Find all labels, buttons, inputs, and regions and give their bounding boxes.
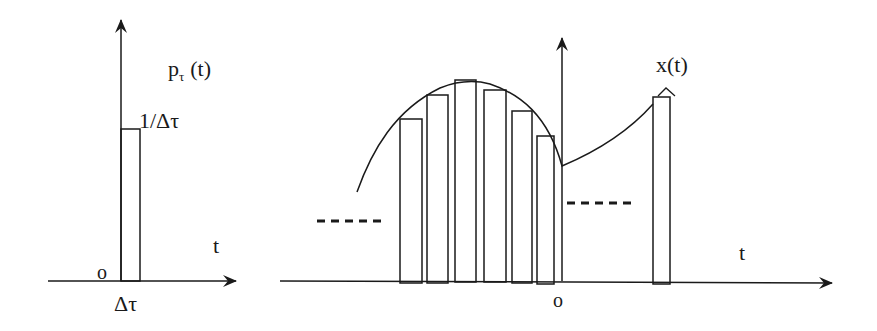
unit-pulse [121,129,140,281]
diagram-canvas: pτ(t) 1/Δτ t o Δτ x(t) t o [0,0,877,331]
t-axis-label-right: t [739,240,745,265]
staircase-approximation-diagram: x(t) t o [280,38,832,311]
signal-function-label: x(t) [656,52,688,77]
t-axis-right [280,281,832,283]
origin-label-right: o [553,289,563,311]
pulse-width-label: Δτ [114,291,137,316]
bar [484,90,506,282]
bar [427,95,448,283]
t-axis-label-left: t [213,233,219,258]
bar [455,80,476,282]
bar [400,119,422,283]
signal-curve [357,81,653,192]
bar [653,97,670,284]
bar [512,111,532,283]
pulse-height-label: 1/Δτ [139,108,179,133]
bar [537,136,554,284]
origin-label-left: o [97,261,107,283]
pulse-diagram: pτ(t) 1/Δτ t o Δτ [48,20,236,316]
approximation-bars [400,80,670,284]
pulse-function-label: pτ(t) [168,56,211,84]
curve-continuation-mark [658,88,675,96]
